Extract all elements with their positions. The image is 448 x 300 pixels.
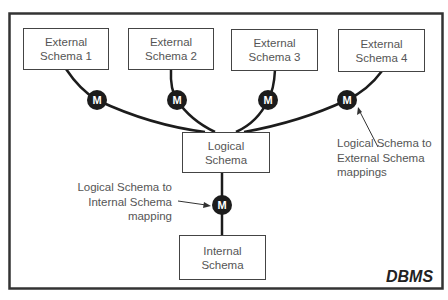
external-schema-3-box: External Schema 3 <box>231 29 318 71</box>
internal-mapping-annotation: Logical Schema to Internal Schema mappin… <box>60 180 172 224</box>
external-schema-1-box: External Schema 1 <box>23 28 109 70</box>
external-schema-1-line1: External <box>45 35 87 49</box>
logical-schema-line1: Logical <box>208 139 244 153</box>
external-schema-2-line1: External <box>150 35 192 49</box>
internal-schema-line1: Internal <box>203 244 241 258</box>
external-schema-2-line2: Schema 2 <box>145 49 197 63</box>
mapping-node-external-3: M <box>258 90 278 110</box>
internal-schema-line2: Schema <box>201 258 243 272</box>
annotation-line: Logical Schema to <box>337 136 432 151</box>
logical-schema-line2: Schema <box>205 153 247 167</box>
arrow-internal-mapping <box>178 201 206 205</box>
annotation-line: mappings <box>337 165 432 180</box>
logical-schema-box: Logical Schema <box>182 132 270 173</box>
external-schema-1-line2: Schema 1 <box>40 49 92 63</box>
internal-schema-box: Internal Schema <box>179 235 266 280</box>
mapping-node-external-1: M <box>87 90 107 110</box>
external-mappings-annotation: Logical Schema to External Schema mappin… <box>337 136 432 180</box>
mapping-node-external-2: M <box>167 90 187 110</box>
annotation-line: Internal Schema <box>60 195 172 210</box>
external-schema-3-line1: External <box>253 36 295 50</box>
annotation-line: Logical Schema to <box>60 180 172 195</box>
external-schema-2-box: External Schema 2 <box>128 28 214 70</box>
external-schema-4-line1: External <box>360 37 402 51</box>
dbms-label: DBMS <box>386 268 433 286</box>
mapping-node-internal: M <box>212 195 232 215</box>
annotation-line: External Schema <box>337 151 432 166</box>
annotation-line: mapping <box>60 209 172 224</box>
external-schema-4-line2: Schema 4 <box>356 51 408 65</box>
external-schema-4-box: External Schema 4 <box>338 29 425 72</box>
mapping-node-external-4: M <box>337 90 357 110</box>
arrowhead-icon <box>203 202 211 208</box>
external-schema-3-line2: Schema 3 <box>249 50 301 64</box>
